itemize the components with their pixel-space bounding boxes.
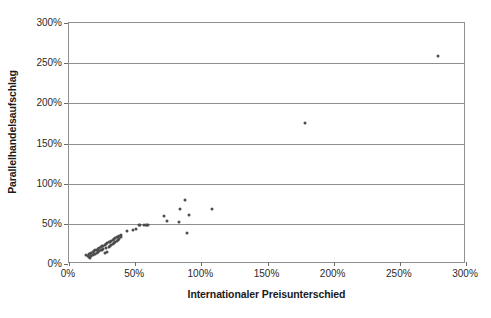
- data-point: [139, 223, 142, 226]
- x-tick-label: 100%: [170, 268, 230, 279]
- plot-area: [68, 22, 465, 263]
- x-tick-label: 200%: [303, 268, 363, 279]
- x-tick-label: 250%: [369, 268, 429, 279]
- gridline-horizontal: [69, 144, 464, 145]
- data-point: [185, 231, 188, 234]
- data-point: [177, 221, 180, 224]
- data-point: [135, 228, 138, 231]
- data-point: [119, 236, 122, 239]
- data-point: [165, 220, 168, 223]
- data-point: [184, 198, 187, 201]
- x-axis-title: Internationaler Preisunterschied: [68, 288, 465, 300]
- y-tick-mark: [64, 184, 68, 185]
- y-tick-mark: [64, 23, 68, 24]
- data-point: [437, 54, 440, 57]
- data-point: [303, 122, 306, 125]
- data-point: [188, 213, 191, 216]
- x-tick-label: 50%: [104, 268, 164, 279]
- gridline-horizontal: [69, 63, 464, 64]
- x-tick-mark: [466, 262, 467, 266]
- data-point: [126, 230, 129, 233]
- scatter-chart: Parallelhandelsaufschlag 0%50%100%150%20…: [0, 0, 491, 318]
- x-tick-label: 300%: [435, 268, 491, 279]
- data-point: [163, 214, 166, 217]
- x-tick-mark: [201, 262, 202, 266]
- data-point: [147, 223, 150, 226]
- y-tick-mark: [64, 144, 68, 145]
- y-tick-mark: [64, 224, 68, 225]
- data-point: [131, 229, 134, 232]
- x-tick-mark: [135, 262, 136, 266]
- y-tick-mark: [64, 264, 68, 265]
- y-tick-mark: [64, 63, 68, 64]
- y-tick-mark: [64, 103, 68, 104]
- gridline-horizontal: [69, 224, 464, 225]
- x-tick-mark: [268, 262, 269, 266]
- x-tick-label: 150%: [237, 268, 297, 279]
- gridline-horizontal: [69, 103, 464, 104]
- x-tick-label: 0%: [38, 268, 98, 279]
- x-tick-mark: [334, 262, 335, 266]
- data-point: [106, 250, 109, 253]
- x-tick-mark: [400, 262, 401, 266]
- data-point: [210, 207, 213, 210]
- x-tick-mark: [69, 262, 70, 266]
- data-point: [179, 208, 182, 211]
- gridline-horizontal: [69, 184, 464, 185]
